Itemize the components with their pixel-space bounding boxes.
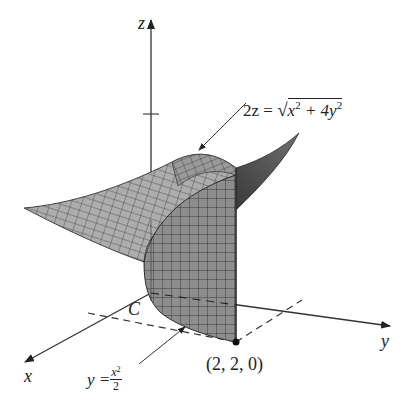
z-axis-label: z xyxy=(138,14,145,32)
point-label: (2, 2, 0) xyxy=(206,355,263,373)
surface-equation-label: 2z = √x2 + 4y2 xyxy=(243,98,342,119)
radical-sign: √ xyxy=(277,99,287,120)
surface-label-leader xyxy=(199,103,246,150)
point-marker xyxy=(233,339,240,346)
y-axis-label: y xyxy=(381,332,389,350)
surface-diagram xyxy=(0,0,408,400)
sqrt-expression: √x2 + 4y2 xyxy=(277,98,342,119)
surface-right-wing xyxy=(236,133,299,210)
curve-equation-label: y = x2 2 xyxy=(87,366,122,392)
radicand: x2 + 4y2 xyxy=(288,98,343,119)
curve-label-leader xyxy=(139,327,185,364)
curve-c-label: C xyxy=(128,300,140,318)
fraction: x2 2 xyxy=(110,366,121,392)
x-axis-label: x xyxy=(24,367,32,385)
curve-eq-lhs: y = xyxy=(87,371,110,388)
surface-eq-lhs: 2z = xyxy=(243,101,277,120)
